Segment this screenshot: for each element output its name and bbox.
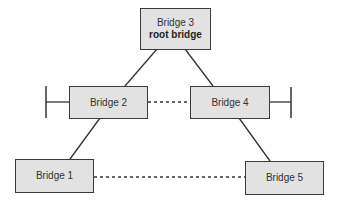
bridge-1-label: Bridge 1 [36,170,73,182]
bridge-3-root-node: Bridge 3 root bridge [140,8,211,50]
bridge-2-node: Bridge 2 [69,86,148,119]
bridge-3-label: Bridge 3 [157,17,194,29]
bridge-2-label: Bridge 2 [90,97,127,109]
link-bridge3-bridge2 [125,49,157,86]
bridge-5-label: Bridge 5 [266,172,303,184]
link-bridge3-bridge4 [185,49,213,86]
root-bridge-label: root bridge [149,29,202,41]
link-bridge2-bridge1 [70,118,100,159]
bridge-4-node: Bridge 4 [190,86,270,119]
link-bridge4-bridge5 [239,118,270,161]
bridge-1-node: Bridge 1 [15,159,94,193]
bridge-4-label: Bridge 4 [211,97,248,109]
bridge-5-node: Bridge 5 [245,161,324,195]
